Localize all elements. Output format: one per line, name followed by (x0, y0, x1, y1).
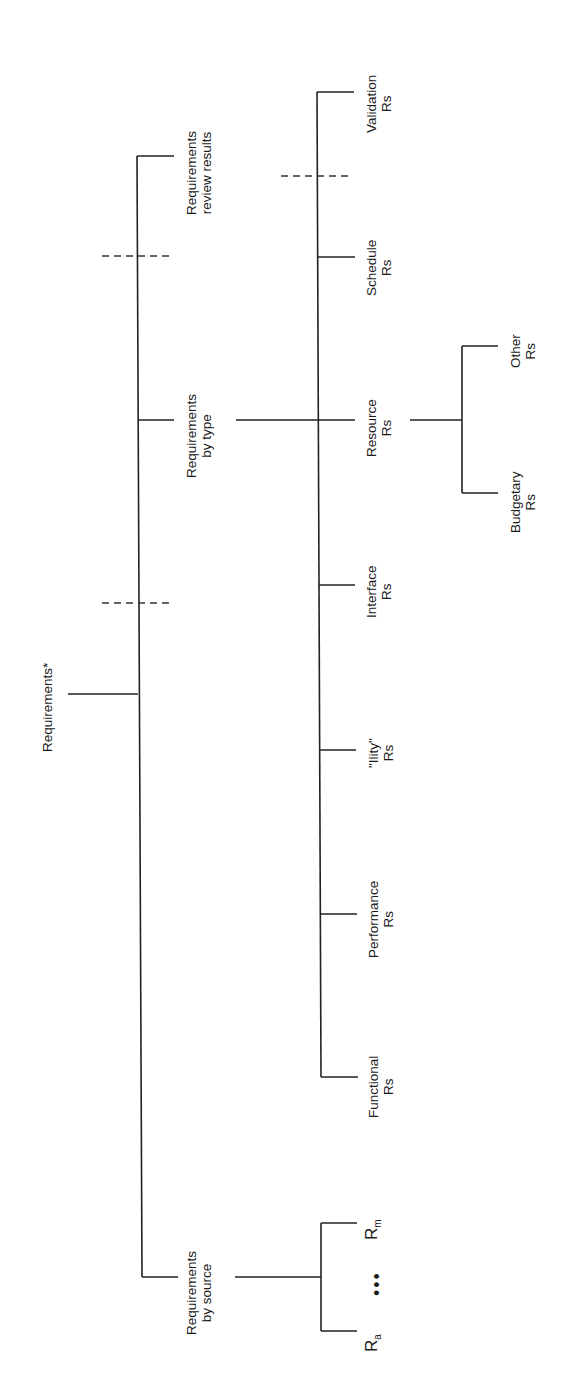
node-label-line2: Rs (523, 334, 538, 368)
node-r-a: Ra (364, 1334, 385, 1352)
node-label-line1: Requirements (184, 131, 199, 215)
node-label-line1: Other (508, 334, 523, 368)
node-label-line1: Resource (364, 399, 379, 457)
node-label-line2: Rs (379, 75, 394, 133)
node-label-line1: Interface (364, 565, 379, 618)
node-r-m-text: Rm (364, 1219, 385, 1240)
root-label-requirements: Requirements* (40, 663, 55, 752)
node-label-line2: Rs (381, 1056, 396, 1118)
node-requirements-review-results: Requirements review results (184, 131, 214, 215)
r-letter: R (362, 1228, 381, 1240)
node-resource-rs: Resource Rs (364, 399, 394, 457)
r-subscript: a (372, 1334, 383, 1340)
node-label-line1: Performance (366, 881, 381, 958)
node-r-m: Rm (364, 1219, 385, 1240)
node-schedule-rs: Schedule Rs (364, 240, 394, 296)
node-r-a-text: Ra (364, 1334, 385, 1352)
node-label-line2: Rs (379, 565, 394, 618)
node-label-line1: Requirements (184, 1251, 199, 1335)
r-letter: R (362, 1340, 381, 1352)
ellipsis-text: ••• (367, 1271, 387, 1296)
node-validation-rs: Validation Rs (364, 75, 394, 133)
node-label-line2: by source (199, 1251, 214, 1335)
node-label-line2: review results (199, 131, 214, 215)
node-label-line1: Functional (366, 1056, 381, 1118)
node-ility-rs: "Ility" Rs (366, 738, 396, 768)
node-label-line2: Rs (379, 399, 394, 457)
node-label-line2: Rs (381, 881, 396, 958)
node-label-line2: Rs (379, 240, 394, 296)
node-label-line1: "Ility" (366, 738, 381, 768)
node-other-rs: Other Rs (508, 334, 538, 368)
node-performance-rs: Performance Rs (366, 881, 396, 958)
node-requirements-by-type: Requirements by type (184, 394, 214, 478)
root-label-text: Requirements* (40, 663, 55, 752)
ellipsis-dots: ••• (367, 1271, 388, 1296)
node-label-line1: Requirements (184, 394, 199, 478)
node-label-line1: Validation (364, 75, 379, 133)
node-budgetary-rs: Budgetary Rs (508, 471, 538, 533)
node-functional-rs: Functional Rs (366, 1056, 396, 1118)
node-interface-rs: Interface Rs (364, 565, 394, 618)
r-subscript: m (372, 1219, 383, 1227)
node-label-line1: Budgetary (508, 471, 523, 533)
tree-connector-lines (0, 0, 573, 1394)
node-requirements-by-source: Requirements by source (184, 1251, 214, 1335)
node-label-line1: Schedule (364, 240, 379, 296)
node-label-line2: by type (199, 394, 214, 478)
node-label-line2: Rs (523, 471, 538, 533)
node-label-line2: Rs (381, 738, 396, 768)
